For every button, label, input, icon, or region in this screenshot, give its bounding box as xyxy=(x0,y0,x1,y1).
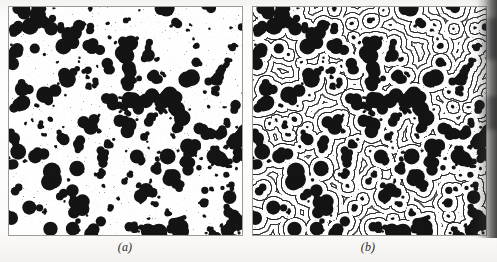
panel-b-canvas xyxy=(253,7,487,236)
panel-a-canvas xyxy=(9,7,243,236)
panel-a xyxy=(8,6,243,236)
panel-a-caption: (a) xyxy=(85,240,165,255)
figure-root: (a) (b) xyxy=(0,0,497,262)
panel-b xyxy=(252,6,487,236)
panel-b-caption: (b) xyxy=(328,240,408,255)
